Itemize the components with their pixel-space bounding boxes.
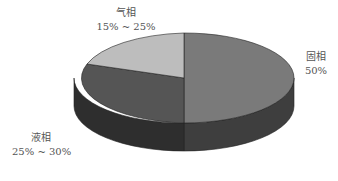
label-solid: 固相 50% — [298, 50, 334, 78]
label-solid-name: 固相 — [298, 50, 334, 64]
label-gas-name: 气相 — [96, 6, 156, 20]
label-gas-value: 15% ~ 25% — [96, 20, 156, 34]
label-liquid-value: 25% ~ 30% — [12, 145, 70, 159]
label-gas: 气相 15% ~ 25% — [96, 6, 156, 34]
label-solid-value: 50% — [298, 64, 334, 78]
label-liquid: 液相 25% ~ 30% — [12, 131, 70, 159]
label-liquid-name: 液相 — [12, 131, 70, 145]
